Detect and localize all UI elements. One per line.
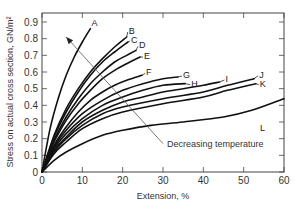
leader-line [136, 46, 138, 50]
leader-line [185, 84, 190, 85]
curve-label-d: D [139, 40, 146, 50]
curve-label-k: K [260, 79, 266, 89]
y-tick-label: 0.2 [24, 133, 38, 144]
curve-label-i: I [225, 74, 228, 84]
leader-line [256, 84, 259, 85]
leader-line [142, 73, 145, 75]
y-tick-label: 0.9 [24, 17, 38, 28]
y-tick-label: 0.4 [24, 100, 38, 111]
x-tick-label: 60 [278, 175, 290, 186]
curve-label-c: C [131, 35, 138, 45]
x-tick-label: 40 [198, 175, 210, 186]
leader-line [178, 76, 182, 77]
curve-d [42, 50, 136, 172]
y-tick-label: 0.6 [24, 67, 38, 78]
stress-extension-chart: 00.10.20.30.40.50.60.70.80.9 01020304050… [0, 0, 295, 204]
x-tick-label: 0 [39, 175, 45, 186]
x-axis-label: Extension, % [137, 191, 190, 201]
x-tick-label: 10 [77, 175, 89, 186]
leader-line [254, 76, 258, 79]
y-tick-label: 0 [32, 167, 38, 178]
x-tick-label: 20 [117, 175, 129, 186]
curve-h [42, 84, 185, 172]
x-tick-label: 50 [238, 175, 250, 186]
curve-label-a: A [91, 18, 97, 28]
leader-line [127, 32, 128, 37]
decreasing-temperature-annotation: Decreasing temperature [66, 37, 263, 149]
y-tick-label: 0.3 [24, 117, 38, 128]
y-tick-label: 0.5 [24, 83, 38, 94]
y-tick-label: 0.1 [24, 150, 38, 161]
x-tick-label: 30 [157, 175, 169, 186]
leader-line [219, 80, 224, 82]
leader-line [128, 41, 130, 42]
curve-label-f: F [146, 67, 152, 77]
curve-label-h: H [191, 79, 198, 89]
annotation-text: Decreasing temperature [167, 139, 264, 149]
curve-label-e: E [144, 51, 150, 61]
curve-l [42, 99, 284, 172]
y-tick-label: 0.7 [24, 50, 38, 61]
curve-labels: ABCDEFGHIJKL [91, 18, 265, 133]
curve-label-g: G [183, 70, 190, 80]
y-tick-label: 0.8 [24, 33, 38, 44]
y-axis-label: Stress on actual cross section, GN/m² [5, 16, 15, 167]
curve-label-l: L [260, 123, 265, 133]
